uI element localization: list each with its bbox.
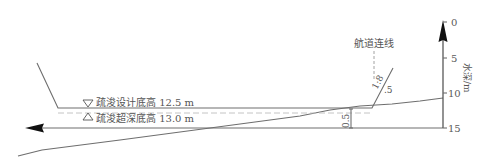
tick-label-0: 0	[451, 17, 457, 28]
channel-line-label: 航道连线	[354, 37, 394, 49]
design-bottom-marker-icon	[83, 100, 93, 107]
over-depth-bottom-label: 疏浚超深底高 13.0 m	[96, 112, 195, 124]
slope-ratio-suffix: .5	[384, 85, 393, 95]
depth-axis-title: 水深/m	[462, 63, 473, 93]
existing-seabed-line	[18, 98, 443, 156]
over-depth-marker-icon	[83, 113, 93, 120]
channel-cross-section-diagram: 0 5 10 15 水深/m 疏浚设计底高 12.5 m 疏浚超深底高 13.0…	[0, 0, 488, 165]
design-bottom-label: 疏浚设计底高 12.5 m	[96, 96, 195, 108]
left-arrow-icon	[25, 124, 44, 133]
tick-label-15: 15	[448, 123, 461, 134]
tick-label-5: 5	[451, 53, 457, 64]
tick-label-10: 10	[448, 88, 461, 99]
up-arrow-icon	[439, 20, 448, 42]
over-depth-dimension-label: 0.5	[341, 113, 351, 128]
channel-design-profile	[37, 63, 393, 108]
